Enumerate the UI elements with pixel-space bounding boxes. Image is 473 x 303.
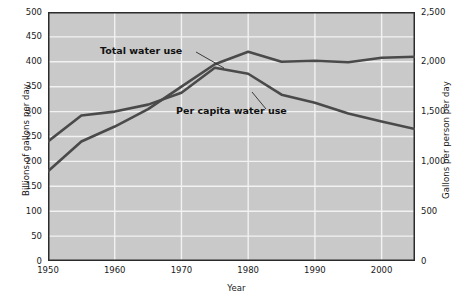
- y-tick-right-500: 500: [421, 206, 461, 216]
- x-axis-title: Year: [0, 283, 473, 293]
- plot-area: Total water use Per capita water use: [48, 12, 415, 261]
- y-axis-right-title: Gallons per person per day: [441, 60, 451, 220]
- y-tick-right-2500: 2,500: [421, 7, 461, 17]
- annotation-total-water-use: Total water use: [100, 45, 182, 56]
- y-tick-left-350: 350: [8, 81, 42, 91]
- y-tick-left-100: 100: [8, 206, 42, 216]
- x-tick-1970: 1970: [156, 265, 206, 275]
- x-tick-1950: 1950: [23, 265, 73, 275]
- y-tick-left-200: 200: [8, 156, 42, 166]
- y-tick-right-1500: 1,500: [421, 106, 461, 116]
- x-tick-1980: 1980: [223, 265, 273, 275]
- y-tick-right-1000: 1,000: [421, 156, 461, 166]
- y-tick-right-2000: 2,000: [421, 56, 461, 66]
- y-tick-left-150: 150: [8, 181, 42, 191]
- y-tick-left-400: 400: [8, 56, 42, 66]
- x-tick-2000: 2000: [357, 265, 407, 275]
- annotation-per-capita-water-use: Per capita water use: [176, 105, 287, 116]
- x-tick-1960: 1960: [90, 265, 140, 275]
- y-tick-left-450: 450: [8, 31, 42, 41]
- y-tick-left-0: 0: [8, 256, 42, 266]
- annotation-leader-lines: [196, 52, 266, 109]
- x-tick-1990: 1990: [290, 265, 340, 275]
- y-tick-right-0: 0: [421, 256, 461, 266]
- chart-figure: Billions of gallons per day Gallons per …: [0, 0, 473, 303]
- y-tick-left-50: 50: [8, 231, 42, 241]
- y-tick-left-300: 300: [8, 106, 42, 116]
- y-tick-left-250: 250: [8, 131, 42, 141]
- y-tick-left-500: 500: [8, 7, 42, 17]
